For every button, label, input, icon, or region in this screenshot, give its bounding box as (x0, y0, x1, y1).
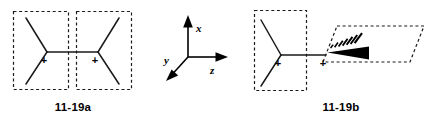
caption-structure-left: 11-19a (28, 101, 118, 113)
solid-wedge-bond-b (328, 47, 370, 60)
axis-label-y: y (162, 54, 169, 66)
dashed-plane-parallelogram-b (323, 26, 424, 62)
charge-plus-right-a: + (92, 54, 98, 66)
axis-label-x: x (195, 22, 202, 34)
dashed-plane-left-a (14, 12, 69, 90)
hashed-wedge-bond-b (331, 33, 362, 48)
charge-plus-right-b: + (320, 57, 326, 69)
axis-arrowhead-x (183, 15, 193, 28)
bond-right-upper-a (98, 18, 119, 52)
bond-right-lower-a (98, 52, 119, 84)
structure-right: + + (255, 11, 425, 91)
charge-plus-left-a: + (41, 54, 47, 66)
coordinate-axes: x y z (162, 15, 228, 81)
bond-left-upper-a (26, 18, 47, 52)
chemistry-figure: + + x y z (0, 0, 439, 126)
caption-structure-right: 11-19b (296, 101, 386, 113)
structure-left: + + (14, 12, 132, 90)
dashed-plane-right-a (77, 12, 132, 90)
axis-arrowhead-z (216, 52, 229, 62)
axis-line-y (173, 57, 189, 74)
bond-left-upper-b (261, 20, 281, 55)
charge-plus-left-b: + (275, 57, 281, 69)
axis-label-z: z (209, 64, 215, 76)
axis-arrowhead-y (166, 70, 178, 81)
